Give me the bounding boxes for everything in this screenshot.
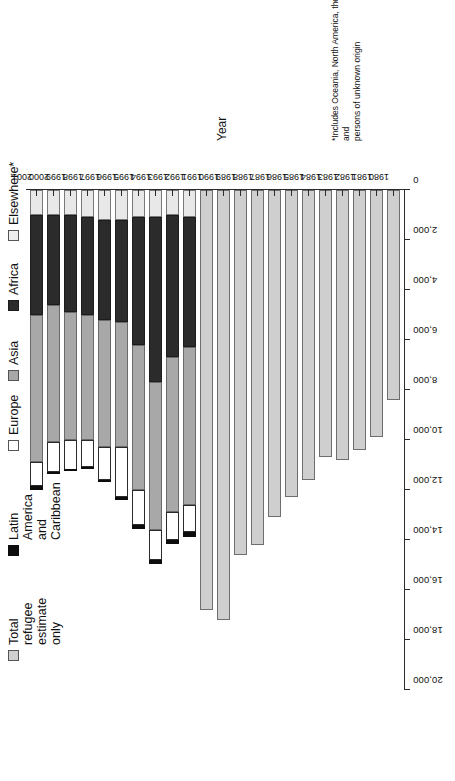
bar-segment-total: [268, 190, 281, 518]
value-tick: [404, 339, 410, 340]
value-tick: [404, 539, 410, 540]
value-tick: [404, 289, 410, 290]
category-tick: [257, 190, 258, 196]
value-tick: [404, 439, 410, 440]
bar-segment-africa: [115, 220, 128, 323]
bar-segment-europe: [115, 448, 128, 498]
value-tick-label: 18,000: [413, 625, 443, 636]
bar-group: [47, 0, 60, 781]
legend-label: Africa: [7, 263, 21, 295]
bar-segment-africa: [64, 215, 77, 313]
bar-segment-total: [302, 190, 315, 480]
bar-segment-total: [200, 190, 213, 610]
legend-swatch-elsewhere: [8, 230, 19, 241]
bar-segment-asia: [47, 305, 60, 443]
bar-segment-latin: [166, 540, 179, 545]
bar-segment-africa: [166, 215, 179, 358]
bar-group: [285, 0, 298, 781]
bar-group: [251, 0, 264, 781]
bar-group: [64, 0, 77, 781]
bar-group: [200, 0, 213, 781]
bar-segment-europe: [47, 443, 60, 473]
bar-segment-total: [336, 190, 349, 460]
category-tick: [274, 190, 275, 196]
bar-segment-asia: [166, 358, 179, 513]
bar-segment-latin: [115, 498, 128, 500]
category-tick: [376, 190, 377, 196]
bar-segment-latin: [64, 470, 77, 472]
category-tick: [393, 190, 394, 196]
bar-segment-europe: [183, 505, 196, 533]
legend-label: Total refugee estimate only: [7, 598, 63, 645]
legend-swatch-asia: [8, 370, 19, 381]
bar-segment-africa: [30, 215, 43, 315]
category-tick: [359, 190, 360, 196]
bar-segment-europe: [132, 490, 145, 525]
category-tick: [223, 190, 224, 196]
bar-segment-latin: [149, 560, 162, 564]
category-tick: [291, 190, 292, 196]
chart-figure: 02,0004,0006,0008,00010,00012,00014,0001…: [0, 0, 455, 781]
bar-segment-total: [217, 190, 230, 620]
bar-segment-africa: [132, 218, 145, 346]
value-tick: [404, 689, 410, 690]
category-tick: [325, 190, 326, 196]
bar-segment-asia: [115, 323, 128, 448]
value-tick-label: 4,000: [413, 275, 437, 286]
legend-swatch-africa: [8, 300, 19, 311]
legend-swatch-europe: [8, 440, 19, 451]
value-tick-label: 12,000: [413, 475, 443, 486]
category-tick: [342, 190, 343, 196]
bar-group: [268, 0, 281, 781]
bar-segment-asia: [149, 383, 162, 531]
bar-group: [370, 0, 383, 781]
bar-segment-total: [353, 190, 366, 450]
value-tick-label: 6,000: [413, 325, 437, 336]
bar-segment-africa: [81, 218, 94, 316]
bar-segment-latin: [183, 533, 196, 538]
bar-group: [149, 0, 162, 781]
value-tick: [404, 389, 410, 390]
value-tick: [404, 589, 410, 590]
bar-segment-latin: [47, 472, 60, 474]
value-tick-label: 16,000: [413, 575, 443, 586]
bar-segment-europe: [64, 440, 77, 470]
bar-group: [234, 0, 247, 781]
bar-segment-total: [251, 190, 264, 545]
bar-segment-europe: [81, 440, 94, 468]
category-tick: [172, 190, 173, 196]
category-tick: [87, 190, 88, 196]
legend-swatch-latin: [8, 545, 19, 556]
category-tick: [240, 190, 241, 196]
value-tick: [404, 489, 410, 490]
category-tick: [138, 190, 139, 196]
value-tick-label: 8,000: [413, 375, 437, 386]
category-tick: [104, 190, 105, 196]
legend-label: Asia: [7, 341, 21, 365]
bar-group: [166, 0, 179, 781]
value-tick-label: 14,000: [413, 525, 443, 536]
bar-segment-latin: [81, 467, 94, 469]
category-tick: [121, 190, 122, 196]
bar-group: [132, 0, 145, 781]
bar-segment-africa: [183, 218, 196, 348]
category-tick: [206, 190, 207, 196]
value-tick-label: 10,000: [413, 425, 443, 436]
bar-segment-asia: [81, 315, 94, 440]
category-tick: [189, 190, 190, 196]
category-tick: [155, 190, 156, 196]
bar-segment-europe: [98, 448, 111, 481]
bar-segment-europe: [166, 513, 179, 541]
value-tick-label: 2,000: [413, 225, 437, 236]
bar-segment-asia: [30, 315, 43, 463]
chart-footnote: *Includes Oceania, North America, the st…: [330, 0, 363, 141]
bar-segment-europe: [149, 530, 162, 560]
bar-group: [98, 0, 111, 781]
rotated-chart-canvas: 02,0004,0006,0008,00010,00012,00014,0001…: [0, 0, 455, 781]
bar-group: [115, 0, 128, 781]
value-axis-line: [404, 190, 405, 690]
category-tick: [70, 190, 71, 196]
bar-segment-asia: [183, 348, 196, 506]
value-tick-label: 0: [413, 175, 418, 186]
bar-group: [302, 0, 315, 781]
